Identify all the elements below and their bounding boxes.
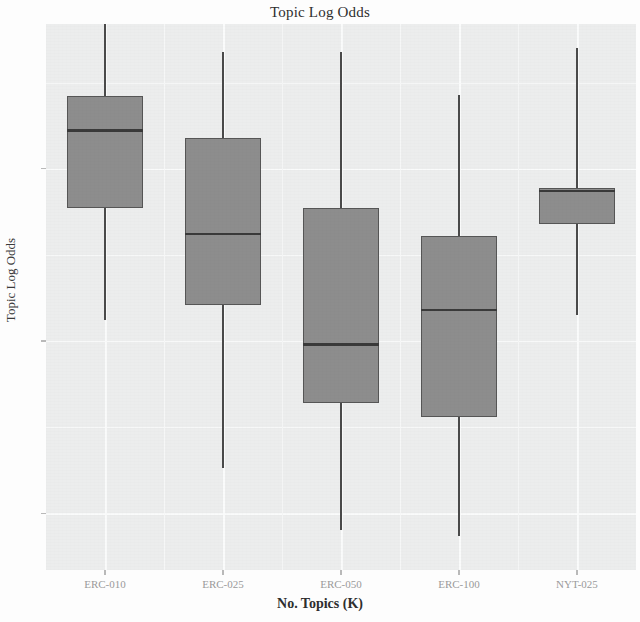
y-axis-title: Topic Log Odds (2, 0, 20, 560)
x-tick-mark (458, 570, 459, 575)
y-axis-title-text: Topic Log Odds (3, 238, 19, 322)
x-tick-label-erc-010: ERC-010 (55, 578, 155, 590)
y-tick-mark (41, 513, 46, 514)
median-line (539, 190, 615, 193)
boxplot-figure: Topic Log Odds Topic Log Odds -1-2-3 ERC… (0, 0, 640, 622)
x-tick-mark (104, 570, 105, 575)
x-tick-label-nyt-025: NYT-025 (527, 578, 627, 590)
y-tick-mark (41, 168, 46, 169)
x-axis-title: No. Topics (K) (0, 596, 640, 612)
plot-panel (46, 24, 636, 570)
whisker-lower (576, 224, 577, 315)
boxplot-box-nyt-025 (46, 24, 636, 570)
x-tick-label-erc-100: ERC-100 (409, 578, 509, 590)
x-tick-mark (340, 570, 341, 575)
whisker-upper (576, 48, 577, 188)
chart-title: Topic Log Odds (0, 4, 640, 21)
x-tick-mark (576, 570, 577, 575)
x-tick-mark (222, 570, 223, 575)
iqr-box (539, 188, 615, 224)
x-tick-label-erc-050: ERC-050 (291, 578, 391, 590)
x-tick-label-erc-025: ERC-025 (173, 578, 273, 590)
y-tick-mark (41, 340, 46, 341)
